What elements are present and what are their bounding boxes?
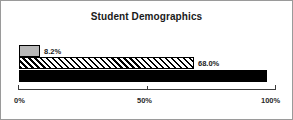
- bar-series-1[interactable]: [19, 45, 40, 57]
- x-axis-label-100: 100%: [261, 96, 280, 105]
- x-axis-tick-50: [147, 86, 148, 90]
- bar-label-series-3: 96.4%: [0, 72, 6, 81]
- x-axis-cap-left: [18, 85, 19, 90]
- bar-series-2[interactable]: [19, 57, 194, 69]
- chart-title: Student Demographics: [1, 11, 292, 23]
- plot-area: 8.2% 68.0% 96.4%: [19, 41, 276, 87]
- x-axis-label-0: 0%: [14, 96, 25, 105]
- chart-container: Student Demographics 8.2% 68.0% 96.4% 0%…: [0, 0, 293, 120]
- bar-label-series-2: 68.0%: [198, 59, 219, 68]
- x-axis-cap-right: [275, 85, 276, 90]
- bar-label-series-1: 8.2%: [44, 47, 61, 56]
- bar-series-3[interactable]: [19, 70, 267, 82]
- x-axis-label-50: 50%: [137, 96, 152, 105]
